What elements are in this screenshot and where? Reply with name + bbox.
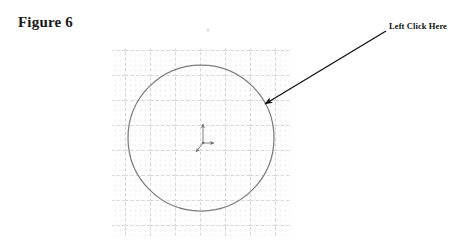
stray-mark [207,29,210,32]
grid-fill [112,48,290,236]
sketch-grid [112,48,290,236]
cad-sketch-canvas [0,0,475,248]
origin-point [202,142,205,145]
figure-page: Figure 6 Left Click Here [0,0,475,248]
